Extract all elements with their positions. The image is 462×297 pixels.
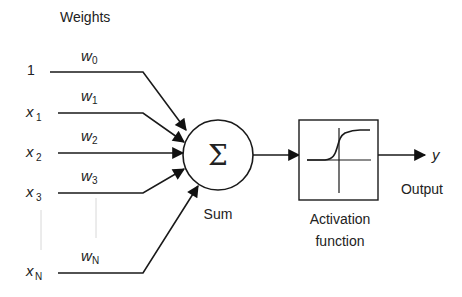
input-x3: x 3 [25,183,42,203]
svg-text:x: x [25,183,34,200]
input-x1: x 1 [25,103,42,123]
weight-w2: w 2 [81,127,98,146]
svg-text:3: 3 [92,175,98,186]
weight-wN: w N [81,247,99,266]
svg-text:3: 3 [36,192,42,203]
svg-text:2: 2 [92,135,98,146]
svg-text:N: N [92,255,99,266]
activation-label-line1: Activation [310,211,371,227]
svg-text:1: 1 [92,95,98,106]
sigma-icon: Σ [208,139,228,172]
svg-text:0: 0 [92,55,98,66]
perceptron-diagram: Weights 1 x 1 x 2 x 3 x N w 0 w 1 w 2 w … [0,0,462,297]
weight-w0: w 0 [81,47,98,66]
connection-w3 [58,169,184,193]
svg-text:2: 2 [36,152,42,163]
input-x2: x 2 [25,143,42,163]
connection-w0 [50,72,186,130]
output-symbol: y [431,146,441,163]
connection-w1 [58,113,184,142]
output-label: Output [401,181,443,197]
weight-w1: w 1 [81,87,98,106]
svg-text:x: x [25,103,34,120]
activation-label-line2: function [315,233,364,249]
input-xN: x N [25,262,42,282]
sum-label: Sum [204,206,233,222]
connection-wN [58,186,198,273]
svg-text:1: 1 [27,62,35,78]
weight-w3: w 3 [81,167,98,186]
svg-text:N: N [35,271,42,282]
svg-text:x: x [25,143,34,160]
svg-text:x: x [25,262,34,279]
svg-text:1: 1 [36,112,42,123]
input-1: 1 [27,62,35,78]
weights-title: Weights [60,9,110,25]
